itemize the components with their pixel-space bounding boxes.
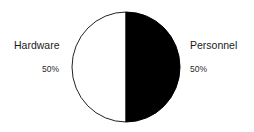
pie-chart: Hardware 50% Personnel 50%: [0, 0, 254, 132]
label-hardware: Hardware: [14, 39, 60, 51]
slice-personnel: [126, 12, 180, 122]
slice-hardware: [72, 12, 126, 122]
label-personnel: Personnel: [190, 39, 237, 51]
value-personnel: 50%: [190, 64, 207, 74]
value-hardware: 50%: [42, 64, 59, 74]
pie-chart-svg: [0, 0, 254, 132]
